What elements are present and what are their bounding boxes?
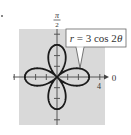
polar-axis-arrow-icon [104,75,109,80]
equation-label: r = 3 cos 2θ [70,32,123,44]
tick-label-4: 4 [97,82,101,91]
stray-mark [1,15,3,17]
polar-axis-label: 0 [112,73,117,83]
polar-graph: r = 3 cos 2θ π 2 0 4 [0,0,131,135]
vertical-axis-label-denominator: 2 [55,21,59,29]
vertical-axis-label-numerator: π [55,11,60,20]
